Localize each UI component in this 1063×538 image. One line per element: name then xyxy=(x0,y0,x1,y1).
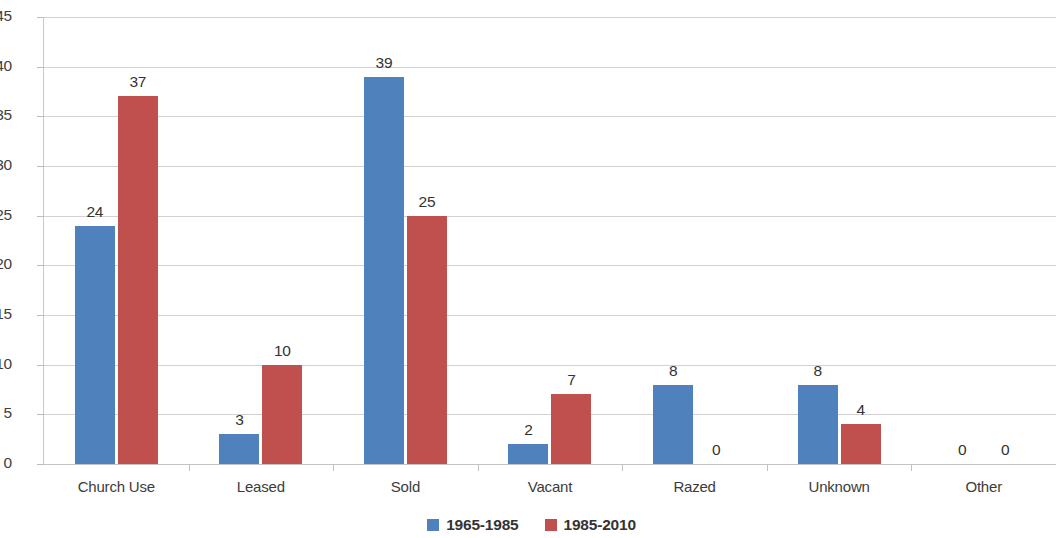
bar-value-label: 0 xyxy=(973,441,1037,459)
bar-value-label: 7 xyxy=(539,371,603,389)
y-axis-tick-mark xyxy=(37,414,44,415)
y-axis-tick-mark xyxy=(37,464,44,465)
y-axis-tick-mark xyxy=(37,365,44,366)
y-axis-tick-mark xyxy=(37,116,44,117)
bar-leased-1985-2010[interactable] xyxy=(262,365,302,464)
y-axis-tick-label: 5 xyxy=(0,404,12,422)
bar-value-label: 8 xyxy=(641,362,705,380)
bar-value-label: 10 xyxy=(250,342,314,360)
bar-church-use-1985-2010[interactable] xyxy=(118,96,158,464)
bar-group: 84 xyxy=(767,17,912,464)
legend-label: 1965-1985 xyxy=(446,516,518,534)
y-axis-tick-label: 35 xyxy=(0,106,12,124)
y-axis-tick-mark xyxy=(37,17,44,18)
legend-color-swatch xyxy=(427,519,439,531)
bar-vacant-1965-1985[interactable] xyxy=(508,444,548,464)
bar-group: 3925 xyxy=(333,17,478,464)
x-axis-tick-mark xyxy=(189,464,190,471)
x-axis-category-label: Razed xyxy=(622,478,767,495)
bar-groups: 2437310392527808400 xyxy=(44,17,1056,464)
x-axis-category-label: Other xyxy=(911,478,1056,495)
y-axis-tick-mark xyxy=(37,315,44,316)
x-axis-category-label: Leased xyxy=(189,478,334,495)
legend-item-1965-1985[interactable]: 1965-1985 xyxy=(427,516,518,534)
y-axis-tick-label: 20 xyxy=(0,255,12,273)
x-axis-category-label: Church Use xyxy=(44,478,189,495)
chart-legend: 1965-19851985-2010 xyxy=(0,512,1063,538)
bar-value-label: 39 xyxy=(352,54,416,72)
y-axis-tick-label: 10 xyxy=(0,355,12,373)
y-axis-tick-label: 45 xyxy=(0,7,12,25)
bar-unknown-1965-1985[interactable] xyxy=(798,385,838,464)
x-axis-tick-mark xyxy=(911,464,912,471)
bar-sold-1965-1985[interactable] xyxy=(364,77,404,464)
bar-group: 310 xyxy=(189,17,334,464)
bar-value-label: 0 xyxy=(684,441,748,459)
bar-sold-1985-2010[interactable] xyxy=(407,216,447,464)
bar-unknown-1985-2010[interactable] xyxy=(841,424,881,464)
bar-value-label: 25 xyxy=(395,193,459,211)
bar-group: 27 xyxy=(478,17,623,464)
x-axis-category-label: Vacant xyxy=(478,478,623,495)
legend-color-swatch xyxy=(545,519,557,531)
bar-value-label: 4 xyxy=(829,401,893,419)
x-axis-category-label: Unknown xyxy=(767,478,912,495)
bar-group: 00 xyxy=(911,17,1056,464)
bar-value-label: 37 xyxy=(106,73,170,91)
y-axis-tick-label: 30 xyxy=(0,156,12,174)
bar-group: 80 xyxy=(622,17,767,464)
x-axis-tick-mark xyxy=(478,464,479,471)
y-axis-tick-mark xyxy=(37,265,44,266)
y-axis-tick-mark xyxy=(37,216,44,217)
x-axis-tick-mark xyxy=(622,464,623,471)
y-axis-tick-label: 25 xyxy=(0,206,12,224)
x-axis-category-label: Sold xyxy=(333,478,478,495)
bar-leased-1965-1985[interactable] xyxy=(219,434,259,464)
y-axis-tick-label: 15 xyxy=(0,305,12,323)
gridline xyxy=(44,464,1056,465)
legend-label: 1985-2010 xyxy=(564,516,636,534)
y-axis-tick-mark xyxy=(37,67,44,68)
x-axis-tick-mark xyxy=(333,464,334,471)
bar-chart: 051015202530354045 2437310392527808400 C… xyxy=(0,0,1063,538)
y-axis-tick-label: 40 xyxy=(0,57,12,75)
bar-vacant-1985-2010[interactable] xyxy=(551,394,591,464)
x-axis-tick-mark xyxy=(767,464,768,471)
legend-item-1985-2010[interactable]: 1985-2010 xyxy=(545,516,636,534)
y-axis-tick-mark xyxy=(37,166,44,167)
bar-church-use-1965-1985[interactable] xyxy=(75,226,115,464)
bar-value-label: 8 xyxy=(786,362,850,380)
bar-group: 2437 xyxy=(44,17,189,464)
y-axis-tick-label: 0 xyxy=(0,454,12,472)
